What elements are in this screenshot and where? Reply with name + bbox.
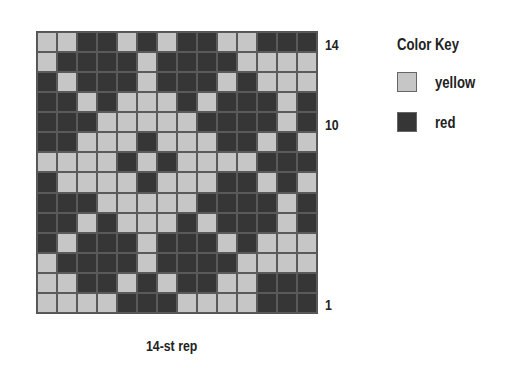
chart-cell: [157, 193, 177, 213]
chart-cell: [157, 72, 177, 92]
chart-cell: [237, 52, 257, 72]
chart-cell: [177, 52, 197, 72]
chart-cell: [77, 32, 97, 52]
row-label-1: 1: [325, 296, 332, 313]
chart-cell: [57, 52, 77, 72]
chart-cell: [177, 92, 197, 112]
chart-cell: [197, 112, 217, 132]
chart-cell: [97, 52, 117, 72]
chart-cell: [37, 32, 57, 52]
chart-cell: [217, 233, 237, 253]
chart-cell: [37, 172, 57, 192]
chart-cell: [237, 72, 257, 92]
chart-cell: [217, 112, 237, 132]
row-label-10: 10: [325, 116, 339, 133]
chart-cell: [197, 92, 217, 112]
chart-cell: [157, 293, 177, 313]
chart-cell: [277, 233, 297, 253]
chart-cell: [57, 72, 77, 92]
chart-cell: [117, 172, 137, 192]
chart-cell: [217, 273, 237, 293]
chart-cell: [237, 273, 257, 293]
chart-cell: [37, 273, 57, 293]
chart-cell: [237, 233, 257, 253]
chart-cell: [137, 213, 157, 233]
chart-cell: [217, 92, 237, 112]
chart-cell: [37, 52, 57, 72]
chart-cell: [237, 152, 257, 172]
chart-cell: [77, 293, 97, 313]
chart-cell: [237, 132, 257, 152]
chart-cell: [77, 132, 97, 152]
chart-cell: [137, 233, 157, 253]
chart-cell: [277, 213, 297, 233]
chart-cell: [257, 92, 277, 112]
chart-cell: [117, 132, 137, 152]
chart-cell: [97, 273, 117, 293]
chart-cell: [297, 52, 317, 72]
chart-cell: [297, 193, 317, 213]
chart-cell: [237, 253, 257, 273]
chart-cell: [77, 253, 97, 273]
chart-cell: [37, 253, 57, 273]
chart-cell: [277, 152, 297, 172]
chart-cell: [237, 193, 257, 213]
chart-cell: [257, 293, 277, 313]
chart-cell: [297, 213, 317, 233]
chart-cell: [137, 152, 157, 172]
chart-cell: [117, 253, 137, 273]
chart-cell: [257, 32, 277, 52]
chart-cell: [97, 172, 117, 192]
chart-cell: [77, 72, 97, 92]
chart-cell: [97, 112, 117, 132]
chart-cell: [57, 213, 77, 233]
chart-cell: [157, 32, 177, 52]
chart-caption: 14-st rep: [146, 337, 197, 354]
key-label-red: red: [435, 114, 455, 132]
chart-cell: [197, 213, 217, 233]
chart-cell: [197, 293, 217, 313]
chart-cell: [57, 233, 77, 253]
chart-cell: [297, 132, 317, 152]
chart-cell: [157, 132, 177, 152]
chart-cell: [297, 233, 317, 253]
chart-cell: [117, 213, 137, 233]
chart-cell: [277, 72, 297, 92]
chart-cell: [57, 293, 77, 313]
chart-cell: [297, 172, 317, 192]
chart-cell: [137, 72, 157, 92]
chart-cell: [157, 92, 177, 112]
chart-cell: [177, 132, 197, 152]
chart-cell: [117, 233, 137, 253]
chart-cell: [237, 112, 257, 132]
chart-cell: [77, 273, 97, 293]
chart-cell: [177, 193, 197, 213]
chart-cell: [137, 172, 157, 192]
chart-cell: [97, 233, 117, 253]
chart-cell: [97, 193, 117, 213]
chart-cell: [137, 273, 157, 293]
chart-cell: [297, 273, 317, 293]
chart-cell: [257, 52, 277, 72]
chart-cell: [217, 52, 237, 72]
chart-cell: [277, 273, 297, 293]
chart-cell: [137, 193, 157, 213]
chart-cell: [257, 112, 277, 132]
chart-cell: [217, 253, 237, 273]
chart-cell: [97, 253, 117, 273]
chart-cell: [217, 72, 237, 92]
chart-cell: [157, 112, 177, 132]
chart-cell: [97, 152, 117, 172]
chart-cell: [177, 293, 197, 313]
chart-cell: [257, 193, 277, 213]
chart-cell: [137, 92, 157, 112]
chart-cell: [57, 253, 77, 273]
chart-cell: [177, 152, 197, 172]
chart-cell: [237, 92, 257, 112]
chart-cell: [37, 132, 57, 152]
chart-cell: [117, 32, 137, 52]
chart-cell: [277, 112, 297, 132]
chart-cell: [117, 52, 137, 72]
chart-cell: [97, 293, 117, 313]
chart-cell: [137, 32, 157, 52]
